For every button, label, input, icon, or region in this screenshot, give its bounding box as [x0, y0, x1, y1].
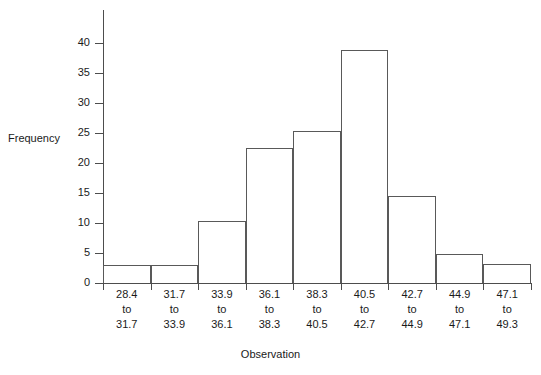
x-category-line: to — [341, 302, 389, 317]
x-axis-title: Observation — [0, 348, 541, 360]
x-category-line: 33.9 — [198, 287, 246, 302]
x-category-line: 47.1 — [436, 317, 484, 332]
x-category-label: 28.4to31.7 — [103, 287, 151, 332]
x-category-line: 31.7 — [151, 287, 199, 302]
histogram-bar — [436, 254, 484, 283]
y-tick: 40 — [95, 43, 103, 44]
y-tick: 15 — [95, 193, 103, 194]
x-category-line: 40.5 — [293, 317, 341, 332]
y-tick: 30 — [95, 103, 103, 104]
x-category-label: 44.9to47.1 — [436, 287, 484, 332]
x-category-line: 40.5 — [341, 287, 389, 302]
y-tick-label: 10 — [78, 216, 90, 229]
x-category-label: 42.7to44.9 — [388, 287, 436, 332]
histogram-bar — [103, 265, 151, 283]
x-category-label: 33.9to36.1 — [198, 287, 246, 332]
y-tick-label: 20 — [78, 156, 90, 169]
x-category-line: to — [436, 302, 484, 317]
x-category-line: 36.1 — [246, 287, 294, 302]
y-tick: 0 — [95, 283, 103, 284]
x-category-label: 47.1to49.3 — [483, 287, 531, 332]
y-tick: 20 — [95, 163, 103, 164]
x-category-line: to — [103, 302, 151, 317]
x-category-line: to — [151, 302, 199, 317]
x-category-line: to — [483, 302, 531, 317]
histogram-chart: Frequency 0510152025303540 28.4to31.731.… — [0, 0, 541, 375]
histogram-bar — [246, 148, 294, 283]
x-category-line: 38.3 — [293, 287, 341, 302]
y-tick-label: 30 — [78, 96, 90, 109]
histogram-bar — [341, 50, 389, 283]
x-category-label: 31.7to33.9 — [151, 287, 199, 332]
y-tick: 25 — [95, 133, 103, 134]
y-tick: 5 — [95, 253, 103, 254]
y-tick-label: 25 — [78, 126, 90, 139]
x-category-line: to — [293, 302, 341, 317]
x-category-line: 33.9 — [151, 317, 199, 332]
x-category-line: 38.3 — [246, 317, 294, 332]
x-category-line: 47.1 — [483, 287, 531, 302]
histogram-bar — [293, 131, 341, 283]
x-category-label: 36.1to38.3 — [246, 287, 294, 332]
x-category-line: 44.9 — [436, 287, 484, 302]
x-category-line: 31.7 — [103, 317, 151, 332]
x-category-line: 49.3 — [483, 317, 531, 332]
y-tick: 35 — [95, 73, 103, 74]
x-category-line: to — [388, 302, 436, 317]
x-category-label: 40.5to42.7 — [341, 287, 389, 332]
x-category-label: 38.3to40.5 — [293, 287, 341, 332]
y-tick-label: 5 — [84, 246, 90, 259]
y-tick-label: 15 — [78, 186, 90, 199]
x-category-line: 36.1 — [198, 317, 246, 332]
x-category-line: 44.9 — [388, 317, 436, 332]
x-category-line: to — [198, 302, 246, 317]
y-tick-label: 35 — [78, 66, 90, 79]
histogram-bar — [483, 264, 531, 283]
x-category-line: to — [246, 302, 294, 317]
x-category-line: 28.4 — [103, 287, 151, 302]
x-category-line: 42.7 — [341, 317, 389, 332]
x-tick — [531, 283, 532, 290]
histogram-bar — [151, 265, 199, 283]
histogram-bar — [198, 221, 246, 283]
y-tick: 10 — [95, 223, 103, 224]
y-axis-title: Frequency — [8, 132, 60, 144]
histogram-bar — [388, 196, 436, 283]
y-tick-label: 0 — [84, 276, 90, 289]
y-tick-label: 40 — [78, 36, 90, 49]
plot-area: 0510152025303540 — [103, 10, 531, 283]
y-axis-line — [103, 10, 104, 283]
x-axis-line — [95, 283, 531, 284]
x-category-line: 42.7 — [388, 287, 436, 302]
